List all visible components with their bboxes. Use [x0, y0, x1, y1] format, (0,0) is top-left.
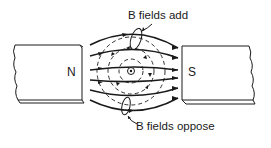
fields-oppose-ellipse — [120, 96, 132, 115]
fields-add-label: B fields add — [128, 10, 188, 22]
north-pole-label: N — [67, 66, 76, 78]
fields-oppose-label: B fields oppose — [136, 121, 215, 133]
south-pole-label: S — [188, 66, 196, 78]
conductor-dot-icon — [128, 68, 135, 75]
field-arrowheads — [98, 33, 178, 113]
fields-add-ellipse — [128, 27, 144, 51]
